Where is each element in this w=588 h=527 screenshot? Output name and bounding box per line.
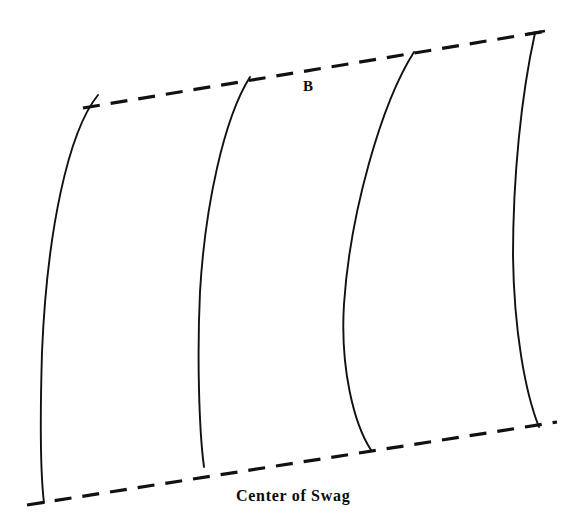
swag-diagram-canvas — [0, 0, 588, 527]
figure-background — [0, 0, 588, 527]
swag-pattern-figure: B Center of Swag — [0, 0, 588, 527]
section-label-b: B — [303, 78, 313, 95]
center-of-swag-label: Center of Swag — [236, 487, 350, 505]
